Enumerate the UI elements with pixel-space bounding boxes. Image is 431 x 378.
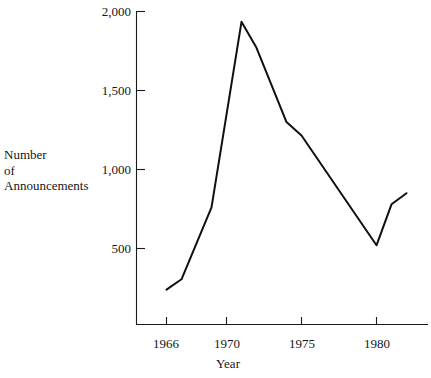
- x-tick-label-1980: 1980: [364, 336, 390, 351]
- x-tick-label-1966: 1966: [153, 336, 180, 351]
- y-tick-label-1500: 1,500: [102, 83, 131, 98]
- plot-area: 2,000 1,500 1,000 500 1966 1970 1975 198…: [0, 0, 431, 378]
- y-tick-label-2000: 2,000: [102, 4, 131, 19]
- x-tick-label-1975: 1975: [289, 336, 315, 351]
- x-axis-title: Year: [216, 356, 241, 371]
- y-tick-label-500: 500: [112, 241, 132, 256]
- line-chart: Number of Announcements 2,000 1,500 1,00…: [0, 0, 431, 378]
- x-tick-label-1970: 1970: [214, 336, 240, 351]
- y-tick-label-1000: 1,000: [102, 162, 131, 177]
- data-series-line: [167, 22, 407, 290]
